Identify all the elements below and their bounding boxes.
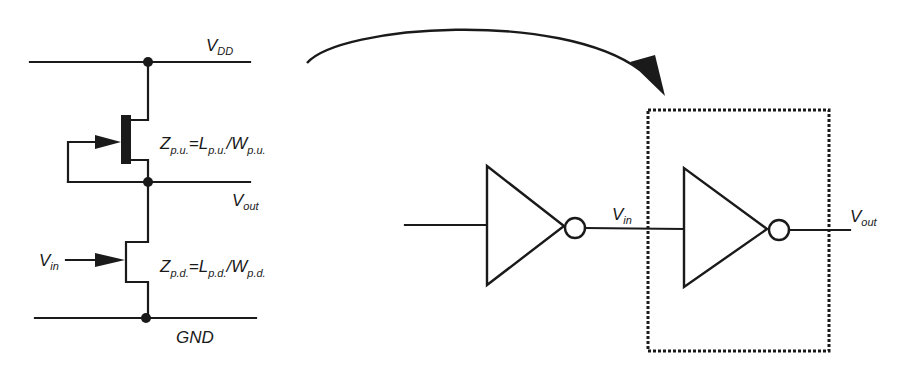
load-inverter	[684, 168, 789, 287]
inverter-circuit-diagram: VDD Zp.u.=Lp.u./Wp.u. Vout Vin Zp.d.=Lp.…	[0, 0, 906, 376]
feedback-loop-wire	[68, 142, 96, 182]
inverter-triangle-icon	[487, 166, 564, 285]
vin-label-right: Vin	[612, 205, 632, 226]
pmos-drain-wire	[132, 62, 148, 120]
vin-arrow-icon	[95, 253, 125, 267]
driver-inverter	[487, 166, 585, 285]
transistor-schematic: VDD Zp.u.=Lp.u./Wp.u. Vout Vin Zp.d.=Lp.…	[30, 36, 266, 347]
curved-arrow-path	[307, 30, 640, 70]
pull-down-transistor	[66, 182, 148, 318]
gate-arrow-icon	[95, 135, 121, 149]
vdd-label: VDD	[206, 36, 233, 57]
pull-down-equation: Zp.d.=Lp.d./Wp.d.	[159, 257, 266, 279]
curved-arrowhead-icon	[630, 55, 665, 96]
vout-label: Vout	[232, 191, 260, 212]
pull-up-transistor	[68, 62, 148, 182]
gate-schematic: Vin Vout	[405, 110, 878, 351]
gnd-node-dot	[141, 313, 151, 323]
pull-up-equation: Zp.u.=Lp.u./Wp.u.	[159, 134, 266, 156]
vin-label-left: Vin	[39, 251, 59, 272]
vout-label-right: Vout	[850, 207, 878, 228]
inversion-bubble-icon	[769, 220, 789, 240]
pmos-channel-body	[121, 115, 131, 164]
nmos-channel-wire	[126, 182, 148, 318]
gnd-label: GND	[176, 328, 214, 347]
inversion-bubble-icon	[565, 218, 585, 238]
mapping-arrow	[307, 30, 665, 96]
vin-net-wire	[585, 228, 684, 229]
inverter-triangle-icon	[684, 168, 767, 287]
